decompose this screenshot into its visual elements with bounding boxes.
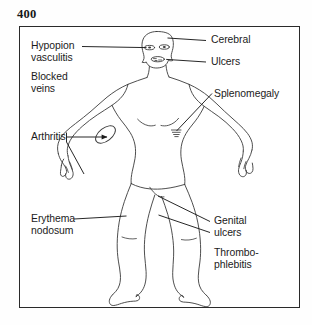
label-blocked-veins: Blocked veins — [31, 71, 68, 94]
page-number: 400 — [17, 7, 36, 21]
label-erythema-nodosum: Erythema nodosum — [31, 213, 75, 236]
label-cerebral: Cerebral — [211, 34, 250, 46]
label-genital-ulcers: Genital ulcers — [214, 215, 247, 238]
label-thrombophlebitis: Thrombo- phlebitis — [214, 247, 259, 270]
label-arthritis: Arthritis — [31, 131, 66, 143]
figure-page: 400 — [0, 0, 312, 325]
label-splenomegaly: Splenomegaly — [214, 88, 279, 100]
label-ulcers: Ulcers — [211, 56, 240, 68]
label-hypopion-vasculitis: Hypopion vasculitis — [31, 40, 75, 63]
